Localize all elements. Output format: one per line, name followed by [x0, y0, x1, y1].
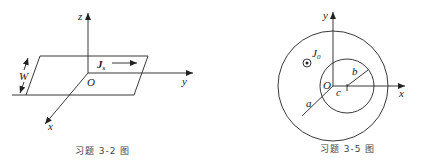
x-axis-label: x [47, 120, 53, 132]
x-axis-label-2: x [398, 87, 404, 99]
figure-caption-3-5: 习题 3-5 图 [320, 142, 375, 155]
figure-caption-3-2: 习题 3-2 图 [75, 144, 130, 157]
outer-radius-label: a [306, 97, 312, 109]
origin-label: O [87, 76, 95, 88]
inner-radius-line [347, 70, 368, 86]
current-out-of-page-dot [306, 62, 309, 65]
origin-label-2: O [323, 79, 331, 91]
current-sheet-plane [12, 56, 148, 95]
z-axis-label: z [77, 10, 83, 22]
y-axis-label-2: y [322, 9, 328, 21]
width-dimension-arrow-bottom [20, 82, 24, 93]
figure-3-5 [278, 12, 405, 141]
x-axis [45, 73, 88, 124]
inner-radius-label: b [352, 65, 358, 77]
width-label: W [19, 70, 29, 82]
offset-label: c [336, 86, 341, 98]
diagram-canvas: z y x O W Js y x O a b c J0 [0, 0, 421, 162]
width-dimension-arrow-top [24, 58, 28, 70]
current-label: Js [96, 58, 106, 72]
current-density-label: J0 [312, 47, 321, 61]
y-axis-label: y [181, 75, 187, 87]
